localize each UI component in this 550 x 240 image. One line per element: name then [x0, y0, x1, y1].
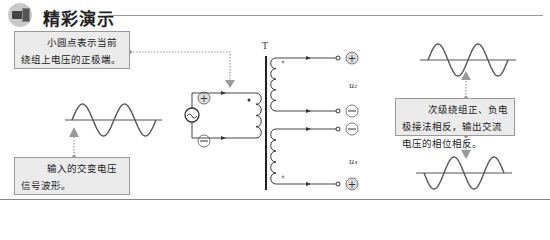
dot-note-connector [128, 50, 235, 88]
transformer-label: T [262, 41, 268, 51]
input-note-callout: 输入的交变电压信号波形。 [14, 157, 130, 195]
dot-note-text: 小圆点表示当前绕组上电压的正极端。 [21, 37, 121, 65]
svg-text:+: + [200, 93, 208, 104]
input-source: + u₁ [185, 91, 261, 147]
output-waveform-top [420, 44, 516, 100]
secondary-winding-top: + u₂ [271, 52, 358, 117]
output-top-label: u₂ [349, 81, 357, 90]
svg-text:+: + [348, 53, 356, 64]
transformer-core: T [262, 41, 268, 190]
dot-note-callout: 小圆点表示当前绕组上电压的正极端。 [14, 31, 130, 69]
secondary-winding-bottom: + u₃ [271, 123, 358, 190]
input-waveform [65, 104, 162, 159]
svg-text:+: + [348, 179, 356, 190]
bottom-divider [0, 199, 550, 200]
output-bottom-label: u₃ [349, 157, 357, 166]
input-note-text: 输入的交变电压信号波形。 [21, 163, 117, 191]
output-note-callout: 次级绕组正、负电极接法相反，输出交流电压的相位相反。 [395, 98, 515, 136]
